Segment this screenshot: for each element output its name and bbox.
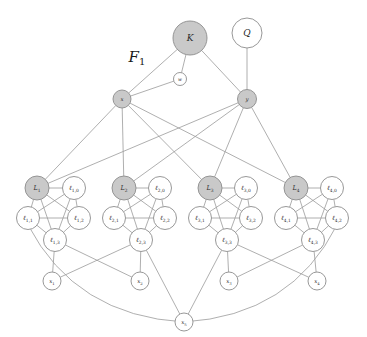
graph-edge: [76, 199, 77, 206]
graph-node-x5[interactable]: x5: [175, 313, 193, 331]
graph-node-K[interactable]: K: [173, 21, 207, 55]
node-label: K: [186, 33, 195, 43]
graph-edge: [123, 225, 132, 232]
graph-edge: [252, 107, 291, 177]
graph-node-l4_1[interactable]: ℓ4,1: [275, 207, 298, 230]
node-label: Q: [243, 28, 251, 38]
graph-edge: [237, 245, 308, 278]
graph-edge: [314, 251, 316, 272]
figure-container: KQwxyL1ℓ1,0ℓ1,1ℓ1,2ℓ1,3L2ℓ2,0ℓ2,1ℓ2,2ℓ2,…: [0, 0, 367, 337]
graph-node-L1[interactable]: L1: [25, 176, 49, 200]
graph-edge: [149, 226, 156, 232]
graph-edge: [215, 108, 244, 177]
graph-node-L3[interactable]: L3: [198, 176, 222, 200]
graph-node-l1_1[interactable]: ℓ1,1: [17, 207, 40, 230]
graph-canvas: KQwxyL1ℓ1,0ℓ1,1ℓ1,2ℓ1,3L2ℓ2,0ℓ2,1ℓ2,2ℓ2,…: [0, 0, 367, 337]
graph-node-l3_3[interactable]: ℓ3,3: [216, 229, 239, 252]
graph-edge: [131, 81, 174, 96]
graph-node-l3_0[interactable]: ℓ3,0: [235, 177, 258, 200]
graph-node-Q[interactable]: Q: [232, 18, 262, 48]
graph-node-l2_0[interactable]: ℓ2,0: [149, 177, 172, 200]
graph-node-l1_2[interactable]: ℓ1,2: [68, 207, 91, 230]
graph-edge: [237, 245, 303, 277]
graph-node-l4_3[interactable]: ℓ4,3: [302, 229, 325, 252]
graph-node-x4[interactable]: x4: [308, 272, 326, 290]
graph-node-x2[interactable]: x2: [131, 272, 149, 290]
graph-edge: [45, 106, 115, 180]
graph-node-l4_2[interactable]: ℓ4,2: [326, 207, 349, 230]
graph-edge: [228, 251, 229, 272]
node-label: x: [120, 96, 123, 102]
graph-edge: [140, 251, 141, 272]
graph-node-l2_2[interactable]: ℓ2,2: [154, 207, 177, 230]
graph-edge: [209, 225, 218, 232]
graph-edge: [31, 199, 33, 206]
graph-edge: [130, 103, 285, 182]
graph-edge: [295, 225, 304, 232]
graph-node-l2_3[interactable]: ℓ2,3: [130, 229, 153, 252]
graph-node-L2[interactable]: L2: [112, 176, 136, 200]
graph-node-l1_0[interactable]: ℓ1,0: [63, 177, 86, 200]
graph-node-x1[interactable]: x1: [43, 272, 61, 290]
graph-edge: [162, 199, 163, 206]
graph-edge: [202, 50, 241, 92]
graph-edge: [182, 55, 186, 73]
graph-node-w[interactable]: w: [174, 73, 187, 86]
graph-node-L4[interactable]: L4: [284, 176, 308, 200]
graph-node-y[interactable]: y: [238, 90, 257, 109]
graph-node-l2_1[interactable]: ℓ2,1: [103, 207, 126, 230]
graph-edge: [204, 199, 207, 207]
curved-edges-layer: [28, 225, 337, 322]
graph-node-l3_1[interactable]: ℓ3,1: [189, 207, 212, 230]
graph-edge: [48, 103, 238, 184]
graph-edge: [248, 199, 249, 206]
node-label: w: [178, 77, 182, 82]
graph-node-x[interactable]: x: [113, 90, 131, 108]
graph-edge: [235, 226, 242, 232]
graph-edge: [290, 199, 293, 207]
graph-node-l4_0[interactable]: ℓ4,0: [321, 177, 344, 200]
graph-edge: [334, 199, 335, 206]
graph-node-x3[interactable]: x3: [220, 272, 238, 290]
graph-edge: [60, 245, 130, 277]
graph-edge: [128, 105, 201, 179]
graph-node-l3_2[interactable]: ℓ3,2: [240, 207, 263, 230]
nodes-layer: KQwxyL1ℓ1,0ℓ1,1ℓ1,2ℓ1,3L2ℓ2,0ℓ2,1ℓ2,2ℓ2,…: [17, 18, 349, 331]
graph-edge: [321, 226, 328, 232]
graph-edge: [134, 105, 240, 181]
graph-edge: [37, 225, 46, 232]
graph-node-l1_3[interactable]: ℓ1,3: [44, 229, 67, 252]
figure-caption: F1: [128, 48, 146, 67]
graph-edge: [188, 250, 221, 314]
graph-edge: [122, 108, 124, 176]
graph-edge: [65, 245, 132, 277]
graph-edge: [118, 199, 121, 207]
graph-edge: [146, 250, 179, 314]
graph-edge: [63, 226, 70, 232]
